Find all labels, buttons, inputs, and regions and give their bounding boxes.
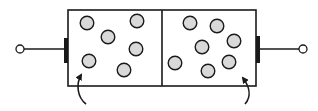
particle <box>82 54 96 68</box>
particle <box>80 16 94 30</box>
right-terminal-node-icon <box>299 45 307 53</box>
particle <box>130 14 144 28</box>
particle <box>201 64 215 78</box>
particle <box>222 55 236 69</box>
particle <box>117 63 131 77</box>
left-terminal-node-icon <box>16 45 24 53</box>
particle <box>183 16 197 30</box>
particle <box>210 19 224 33</box>
particle <box>195 40 209 54</box>
diagram: Two-chamber container with gas particles… <box>0 0 318 111</box>
left-terminal <box>16 38 68 63</box>
right-terminal <box>256 36 307 63</box>
particle <box>227 34 241 48</box>
particle <box>129 42 143 56</box>
particle <box>101 30 115 44</box>
particle <box>168 56 182 70</box>
